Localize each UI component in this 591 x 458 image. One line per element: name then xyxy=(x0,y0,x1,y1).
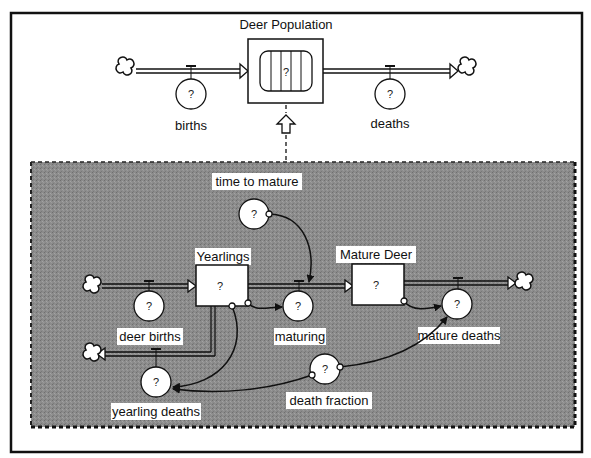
deer-population-stock[interactable]: ? xyxy=(248,39,323,103)
svg-text:?: ? xyxy=(188,88,194,100)
svg-text:?: ? xyxy=(295,300,301,312)
svg-text:?: ? xyxy=(373,279,379,291)
svg-text:?: ? xyxy=(322,363,328,375)
cloud-sink-icon xyxy=(458,57,476,75)
deer-births-label: deer births xyxy=(119,329,181,344)
svg-text:?: ? xyxy=(217,280,223,292)
deer-population-label: Deer Population xyxy=(239,17,332,32)
cloud-sink-mature-icon xyxy=(515,272,533,290)
mature-deer-label: Mature Deer xyxy=(340,247,413,262)
svg-text:?: ? xyxy=(146,300,152,312)
yearlings-label: Yearlings xyxy=(196,249,250,264)
time-to-mature-label: time to mature xyxy=(215,174,298,189)
svg-text:?: ? xyxy=(454,298,460,310)
mature-deer-stock[interactable]: ? xyxy=(352,264,404,305)
deer-births-valve[interactable]: ? xyxy=(134,291,164,321)
svg-text:?: ? xyxy=(153,376,159,388)
maturing-label: maturing xyxy=(275,329,326,344)
death-fraction-converter[interactable]: ? xyxy=(310,354,340,384)
svg-text:?: ? xyxy=(387,88,393,100)
births-label: births xyxy=(175,118,207,133)
time-to-mature-converter[interactable]: ? xyxy=(239,199,269,229)
deaths-label: deaths xyxy=(370,116,410,131)
yearlings-stock[interactable]: ? xyxy=(196,265,248,306)
cloud-sink-yearlings-icon xyxy=(83,343,101,361)
death-fraction-label: death fraction xyxy=(290,393,369,408)
mature-deaths-label: mature deaths xyxy=(417,328,501,343)
mature-deaths-valve[interactable]: ? xyxy=(442,289,472,319)
stock-flow-diagram: ? births Deer Population ? ? xyxy=(0,0,591,458)
yearling-deaths-label: yearling deaths xyxy=(112,404,201,419)
cloud-source-icon xyxy=(116,57,134,75)
maturing-valve[interactable]: ? xyxy=(283,291,313,321)
cloud-source-yearlings-icon xyxy=(83,275,101,293)
svg-text:?: ? xyxy=(251,208,257,220)
births-valve[interactable]: ? xyxy=(176,79,206,109)
yearling-deaths-valve[interactable]: ? xyxy=(141,367,171,397)
svg-text:?: ? xyxy=(283,66,289,78)
deaths-valve[interactable]: ? xyxy=(375,79,405,109)
